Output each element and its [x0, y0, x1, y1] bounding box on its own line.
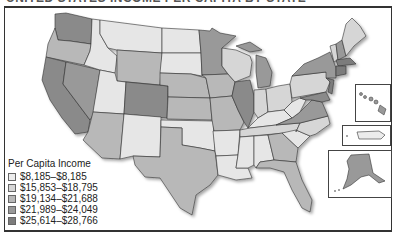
inset-hawaii — [355, 84, 391, 122]
puerto-rico-shape — [343, 126, 390, 145]
state-arkansas — [213, 130, 240, 156]
alaska-shape — [329, 151, 391, 197]
state-new-mexico — [120, 114, 161, 159]
legend-label: $19,134–$21,688 — [20, 193, 98, 204]
legend-swatch — [8, 217, 16, 225]
legend-swatch — [8, 195, 16, 203]
inset-alaska — [328, 150, 392, 198]
legend-label: $8,185–$8,185 — [20, 171, 87, 182]
legend-swatch — [8, 173, 16, 181]
state-north-dakota — [162, 28, 201, 53]
legend-title: Per Capita Income — [8, 158, 138, 169]
legend-item: $15,853–$18,795 — [8, 182, 138, 193]
legend-item: $21,989–$24,049 — [8, 204, 138, 215]
state-florida — [256, 160, 312, 212]
state-maine — [342, 18, 366, 56]
legend: Per Capita Income $8,185–$8,185 $15,853–… — [8, 158, 138, 226]
state-south-dakota — [160, 53, 202, 76]
legend-swatch — [8, 206, 16, 214]
legend-item: $25,614–$28,766 — [8, 215, 138, 226]
state-colorado — [124, 82, 168, 118]
state-connecticut — [336, 66, 346, 76]
state-montana — [100, 20, 162, 53]
legend-label: $21,989–$24,049 — [20, 204, 98, 215]
legend-item: $8,185–$8,185 — [8, 171, 138, 182]
legend-label: $25,614–$28,766 — [20, 215, 98, 226]
legend-swatch — [8, 184, 16, 192]
hawaii-shape — [356, 85, 390, 121]
inset-puerto-rico — [342, 125, 391, 146]
state-kansas — [167, 97, 212, 120]
legend-label: $15,853–$18,795 — [20, 182, 98, 193]
state-wyoming — [117, 50, 162, 85]
legend-item: $19,134–$21,688 — [8, 193, 138, 204]
state-washington — [55, 13, 92, 44]
